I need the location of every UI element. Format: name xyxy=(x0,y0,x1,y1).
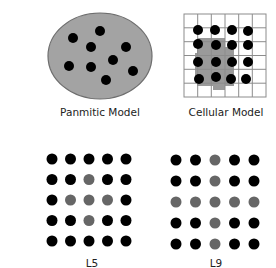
individual-dot xyxy=(121,195,132,206)
neighbor-dot xyxy=(210,176,221,187)
individual-dot xyxy=(47,195,58,206)
individual-dot xyxy=(190,176,201,187)
l9-label: L9 xyxy=(201,257,231,268)
panmitic-model-diagram xyxy=(48,13,152,99)
individual-dot xyxy=(95,26,105,36)
individual-dot xyxy=(249,176,260,187)
l5-neighborhood-lattice xyxy=(47,154,132,247)
population-ellipse xyxy=(48,13,152,99)
individual-dot xyxy=(229,155,240,166)
individual-dot xyxy=(190,239,201,250)
individual-dot xyxy=(190,155,201,166)
neighbor-dot xyxy=(229,197,240,208)
individual-dot xyxy=(47,174,58,185)
neighbor-dot xyxy=(102,195,113,206)
neighbor-dot xyxy=(210,197,221,208)
neighbor-dot xyxy=(84,195,95,206)
individual-dot xyxy=(84,154,95,165)
individual-dot xyxy=(171,218,182,229)
individual-dot xyxy=(102,174,113,185)
neighbor-dot xyxy=(84,174,95,185)
individual-dot xyxy=(47,236,58,247)
individual-dot xyxy=(171,176,182,187)
individual-dot xyxy=(171,155,182,166)
cellular-model-label: Cellular Model xyxy=(180,106,272,118)
individual-dot xyxy=(229,218,240,229)
individual-dot xyxy=(102,215,113,226)
individual-dot xyxy=(65,174,76,185)
individual-dot xyxy=(86,62,96,72)
individual-dot xyxy=(121,215,132,226)
individual-dot xyxy=(121,154,132,165)
neighbor-dot xyxy=(249,197,260,208)
neighbor-dot xyxy=(210,218,221,229)
individual-dot xyxy=(249,239,260,250)
individual-dot xyxy=(102,154,113,165)
individual-dot xyxy=(249,155,260,166)
individual-dot xyxy=(121,236,132,247)
panmitic-model-label: Panmitic Model xyxy=(54,106,146,118)
individual-dot xyxy=(47,215,58,226)
individual-dot xyxy=(84,236,95,247)
individual-dot xyxy=(229,176,240,187)
neighbor-dot xyxy=(190,197,201,208)
neighbor-dot xyxy=(65,195,76,206)
individual-dot xyxy=(121,42,131,52)
neighbor-dot xyxy=(210,155,221,166)
individual-dot xyxy=(249,218,260,229)
individual-dot xyxy=(65,215,76,226)
individual-dot xyxy=(47,154,58,165)
l5-label: L5 xyxy=(77,257,107,268)
individual-dot xyxy=(229,239,240,250)
neighbor-dot xyxy=(210,239,221,250)
diagram-canvas xyxy=(0,0,276,268)
neighbor-dot xyxy=(171,197,182,208)
individual-dot xyxy=(102,236,113,247)
individual-dot xyxy=(171,239,182,250)
individual-dot xyxy=(65,154,76,165)
l9-neighborhood-lattice xyxy=(171,155,260,250)
individual-dot xyxy=(101,75,111,85)
individual-dot xyxy=(64,61,74,71)
individual-dot xyxy=(128,66,138,76)
neighbor-dot xyxy=(84,215,95,226)
individual-dot xyxy=(108,55,118,65)
individual-dot xyxy=(68,33,78,43)
individual-dot xyxy=(121,174,132,185)
individual-dot xyxy=(65,236,76,247)
individual-dot xyxy=(86,42,96,52)
cellular-model-diagram xyxy=(184,14,266,97)
individual-dot xyxy=(190,218,201,229)
